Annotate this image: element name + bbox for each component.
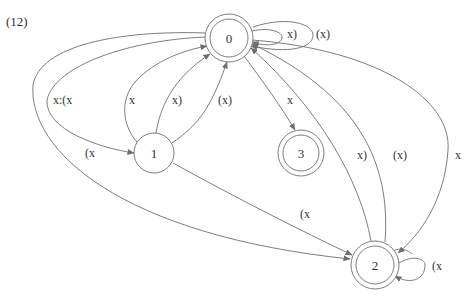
edge-label-1-to-0-x: x bbox=[129, 93, 135, 107]
edge-label-0-to-1-arrival: (x bbox=[85, 146, 95, 160]
node-2-label: 2 bbox=[372, 258, 379, 273]
state-diagram: (12) 0 1 3 2 x) (x) x:(x bbox=[0, 0, 470, 299]
node-2: 2 bbox=[351, 241, 399, 289]
edge-label-1-to-0-xparen: x) bbox=[172, 93, 182, 107]
node-1-label: 1 bbox=[151, 146, 158, 161]
node-0-label: 0 bbox=[226, 31, 233, 46]
edge-label-1-to-0-parenxparen: (x) bbox=[218, 93, 232, 107]
edge-1-to-0-xparen bbox=[156, 54, 210, 133]
edge-label-1-to-2: (x bbox=[300, 207, 310, 221]
node-3-label: 3 bbox=[298, 146, 305, 161]
edge-label-2-self: (x bbox=[432, 259, 442, 273]
edge-1-to-0-x bbox=[125, 46, 207, 142]
node-1: 1 bbox=[134, 133, 174, 173]
edge-label-2-to-0-xparen: x) bbox=[357, 148, 367, 162]
node-0: 0 bbox=[205, 14, 253, 62]
edge-label-2-to-0-parenxparen: (x) bbox=[393, 148, 407, 162]
node-3: 3 bbox=[278, 130, 324, 176]
edge-label-0-to-2-x: x bbox=[455, 148, 461, 162]
edge-2-self bbox=[395, 258, 425, 280]
edge-label-0-self-outer: (x) bbox=[316, 27, 330, 41]
edge-label-0-to-1: x:(x bbox=[53, 93, 72, 107]
edge-label-0-to-3: x bbox=[287, 93, 293, 107]
edge-label-0-self-inner: x) bbox=[287, 27, 297, 41]
figure-label: (12) bbox=[6, 14, 28, 29]
edge-1-to-2 bbox=[173, 163, 352, 255]
